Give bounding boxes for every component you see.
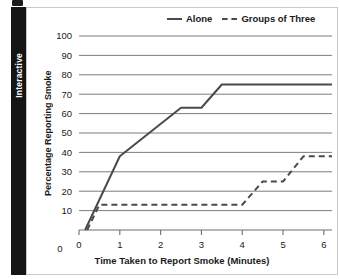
y-tick-label: 30 [61,166,72,177]
y-tick-label: 100 [56,30,72,41]
y-tick-label: 70 [61,89,72,100]
y-tick-label: 10 [61,205,72,216]
chart-plot-area: 102030405060708090100 00123456 [27,8,339,276]
x-tick-label: 6 [321,239,326,250]
y-tick-label: 40 [61,147,72,158]
x-tick-label: 2 [158,239,163,250]
x-axis-group [79,230,332,235]
figure-page: Interactive Alone Groups of Three Percen… [0,0,339,279]
y-tick-label: 50 [61,127,72,138]
gridlines-group [79,36,332,211]
interactive-sidebar: Interactive [11,7,26,275]
y-tick-label: 80 [61,69,72,80]
y-tick-labels-group: 102030405060708090100 [56,30,72,216]
y-origin-label: 0 [57,243,62,254]
sidebar-label: Interactive [14,53,24,98]
page-top-artifact [12,0,23,6]
series-line-groups-of-three [87,156,332,230]
y-tick-label: 90 [61,50,72,61]
y-tick-label: 60 [61,108,72,119]
x-axis-title: Time Taken to Report Smoke (Minutes) [27,255,337,266]
x-tick-label: 0 [76,239,81,250]
data-series-group [85,85,332,231]
chart-figure: Alone Groups of Three Percentage Reporti… [26,7,338,275]
series-line-alone [85,85,332,231]
x-tick-label: 3 [199,239,204,250]
x-tick-label: 1 [117,239,122,250]
x-tick-label: 4 [240,239,245,250]
x-tick-labels-group: 00123456 [57,239,326,254]
y-tick-label: 20 [61,186,72,197]
x-tick-label: 5 [280,239,285,250]
